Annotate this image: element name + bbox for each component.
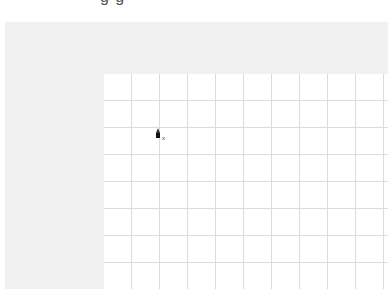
drawing-canvas-grid[interactable] (104, 74, 388, 289)
partial-header-text: g g (100, 0, 388, 6)
cursor-modifier: x (162, 135, 165, 141)
pen-cursor-icon: x (154, 127, 170, 143)
